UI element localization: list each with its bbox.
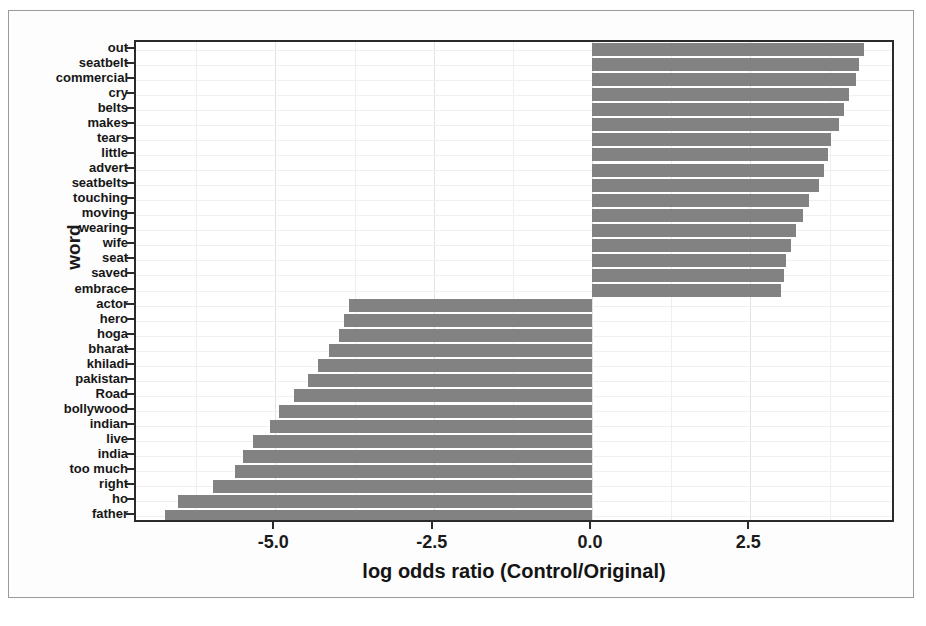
y-tick-mark: [126, 303, 134, 305]
y-tick-mark: [126, 62, 134, 64]
y-tick-mark: [126, 107, 134, 109]
y-tick-mark: [126, 242, 134, 244]
bar: [329, 344, 592, 357]
bar: [592, 164, 824, 177]
y-tick-mark: [126, 453, 134, 455]
x-axis-title: log odds ratio (Control/Original): [134, 560, 894, 583]
y-tick-mark: [126, 468, 134, 470]
bar: [592, 103, 844, 116]
y-tick-label: seatbelts: [72, 176, 128, 189]
y-tick-label: pakistan: [75, 372, 128, 385]
y-tick-label: hero: [100, 312, 128, 325]
y-tick-mark: [126, 318, 134, 320]
y-tick-label: india: [98, 447, 128, 460]
y-tick-mark: [126, 167, 134, 169]
y-tick-label: father: [92, 507, 128, 520]
y-tick-label: live: [106, 432, 128, 445]
y-tick-mark: [126, 408, 134, 410]
y-tick-mark: [126, 212, 134, 214]
y-tick-mark: [126, 378, 134, 380]
plot-panel: [134, 40, 894, 522]
gridline-major: [275, 42, 276, 520]
bar: [592, 254, 786, 267]
bar: [592, 43, 864, 56]
gridline-minor: [196, 42, 197, 520]
y-tick-mark: [126, 152, 134, 154]
bar: [592, 194, 809, 207]
y-tick-label: too much: [70, 462, 129, 475]
bar: [279, 405, 593, 418]
x-tick-label: 0.0: [577, 532, 602, 553]
y-tick-label: out: [108, 41, 128, 54]
y-tick-mark: [126, 363, 134, 365]
y-tick-mark: [126, 348, 134, 350]
y-tick-mark: [126, 393, 134, 395]
bar: [165, 510, 593, 522]
y-tick-mark: [126, 423, 134, 425]
bar: [178, 495, 592, 508]
y-tick-label: embrace: [75, 282, 128, 295]
bar: [235, 465, 592, 478]
y-tick-label: commercial: [56, 71, 128, 84]
y-tick-label: little: [101, 146, 128, 159]
chart-screenshot: word outseatbeltcommercialcrybeltsmakest…: [0, 0, 926, 626]
y-tick-mark: [126, 137, 134, 139]
y-tick-mark: [126, 438, 134, 440]
bar: [294, 389, 592, 402]
bar: [344, 314, 592, 327]
y-tick-mark: [126, 498, 134, 500]
bar: [592, 269, 784, 282]
bar: [592, 179, 819, 192]
y-tick-label: advert: [89, 161, 128, 174]
y-tick-label: right: [99, 477, 128, 490]
bar: [592, 148, 828, 161]
y-tick-label: bollywood: [64, 402, 128, 415]
bar: [349, 299, 592, 312]
bar: [592, 224, 796, 237]
y-tick-label: seat: [102, 251, 128, 264]
bar: [270, 420, 592, 433]
y-tick-mark: [126, 92, 134, 94]
y-tick-mark: [126, 77, 134, 79]
y-tick-label: wearing: [79, 221, 128, 234]
y-tick-mark: [126, 182, 134, 184]
y-tick-mark: [126, 333, 134, 335]
y-tick-mark: [126, 227, 134, 229]
y-tick-mark: [126, 257, 134, 259]
y-tick-label: indian: [90, 417, 128, 430]
y-tick-mark: [126, 122, 134, 124]
y-tick-label: makes: [88, 116, 128, 129]
gridline-minor: [513, 42, 514, 520]
gridline-minor: [355, 42, 356, 520]
y-tick-label: bharat: [88, 342, 128, 355]
y-tick-label: tears: [97, 131, 128, 144]
bar: [213, 480, 592, 493]
y-tick-label: belts: [98, 101, 128, 114]
y-tick-label: touching: [73, 191, 128, 204]
y-tick-label: Road: [96, 387, 129, 400]
y-axis-tick-labels: outseatbeltcommercialcrybeltsmakestearsl…: [20, 40, 128, 522]
bar: [318, 359, 592, 372]
x-tick-mark: [431, 522, 433, 529]
bar: [592, 118, 839, 131]
y-tick-mark: [126, 47, 134, 49]
y-tick-mark: [126, 483, 134, 485]
bar: [592, 133, 831, 146]
y-tick-mark: [126, 272, 134, 274]
bar: [592, 88, 849, 101]
y-tick-label: seatbelt: [79, 56, 128, 69]
y-tick-label: moving: [82, 206, 128, 219]
bar: [243, 450, 592, 463]
bar: [339, 329, 592, 342]
bar: [308, 374, 592, 387]
bar: [592, 239, 791, 252]
y-tick-label: khiladi: [87, 357, 128, 370]
x-tick-label: -2.5: [416, 532, 447, 553]
bar: [592, 209, 803, 222]
y-tick-label: actor: [96, 297, 128, 310]
bar: [253, 435, 592, 448]
y-tick-label: hoga: [97, 327, 128, 340]
bar: [592, 73, 856, 86]
x-tick-label: -5.0: [258, 532, 289, 553]
y-tick-mark: [126, 288, 134, 290]
